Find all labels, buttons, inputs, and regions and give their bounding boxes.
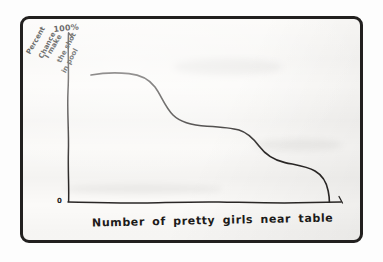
- paper-sheet: 100% 0 Percent Chance I make the shot in…: [20, 16, 363, 243]
- data-curve: [91, 73, 329, 202]
- chart-drawing: 100% 0 Percent Chance I make the shot in…: [23, 19, 360, 240]
- y-axis-origin-label: 0: [57, 197, 62, 205]
- x-axis-line: [68, 202, 341, 203]
- photo-canvas: 100% 0 Percent Chance I make the shot in…: [0, 0, 383, 262]
